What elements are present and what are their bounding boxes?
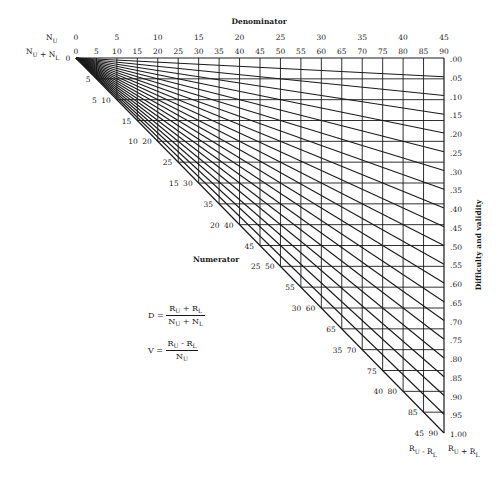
validity-denominator: NU — [166, 351, 199, 362]
nu-nl-tick-label: 75 — [378, 47, 388, 56]
difficulty-formula: D = RU + RL NU + NL — [148, 304, 205, 327]
numerator-tick-label: 35 — [204, 200, 214, 209]
nu-nl-tick-label: 80 — [398, 47, 408, 56]
nu-tick-label: 30 — [317, 33, 327, 42]
validity-formula: V = RU - RL NU — [148, 339, 198, 362]
difficulty-tick-label: .40 — [450, 205, 462, 214]
nu-tick-label: 0 — [74, 33, 79, 42]
nu-nl-tick-label: 85 — [419, 47, 429, 56]
numerator-half-tick-label: 25 — [251, 262, 261, 271]
nu-nl-tick-label: 20 — [153, 47, 163, 56]
ru-minus-rl-label: RU - RL — [409, 444, 437, 458]
difficulty-tick-label: .15 — [450, 111, 462, 120]
nu-nl-tick-label: 60 — [317, 47, 327, 56]
nu-nl-tick-label: 5 — [94, 47, 99, 56]
ru-plus-rl-label: RU + RL — [448, 444, 479, 458]
difficulty-tick-label: .10 — [450, 93, 462, 102]
nu-nl-tick-label: 65 — [337, 47, 347, 56]
nu-nl-tick-label: 15 — [133, 47, 143, 56]
nu-tick-label: 45 — [439, 33, 449, 42]
numerator-half-tick-label: 10 — [128, 137, 138, 146]
validity-numerator: RU - RL — [166, 339, 199, 351]
difficulty-tick-label: .60 — [450, 280, 462, 289]
difficulty-tick-label: .75 — [450, 336, 462, 345]
numerator-tick-label: 30 — [183, 179, 193, 188]
nu-nl-tick-label: 55 — [296, 47, 306, 56]
numerator-tick-label: 80 — [388, 387, 398, 396]
difficulty-tick-label: .05 — [450, 74, 462, 83]
difficulty-numerator: RU + RL — [166, 304, 205, 316]
numerator-tick-label: 20 — [142, 137, 152, 146]
difficulty-tick-label: .00 — [450, 55, 462, 64]
origin-label: 0 — [66, 54, 71, 63]
numerator-tick-label: 10 — [101, 96, 111, 105]
difficulty-denominator: NU + NL — [166, 316, 205, 327]
difficulty-lhs: D = — [148, 311, 164, 320]
numerator-half-tick-label: 20 — [210, 221, 220, 230]
difficulty-tick-label: .25 — [450, 149, 462, 158]
difficulty-tick-label: .65 — [450, 299, 462, 308]
nu-tick-label: 40 — [398, 33, 408, 42]
nu-axis-label: NU — [46, 33, 58, 44]
nu-nl-tick-label: 35 — [214, 47, 224, 56]
difficulty-tick-label: .90 — [450, 393, 462, 402]
nu-tick-label: 15 — [194, 33, 204, 42]
difficulty-tick-label: .45 — [450, 224, 462, 233]
numerator-tick-label: 75 — [367, 367, 377, 376]
nu-nl-tick-label: 40 — [235, 47, 245, 56]
numerator-tick-label: 45 — [244, 242, 254, 251]
nu-nl-axis-label: NU + NL — [26, 47, 59, 61]
numerator-half-tick-label: 30 — [292, 304, 302, 313]
nu-tick-label: 20 — [235, 33, 245, 42]
difficulty-tick-label: .95 — [450, 411, 462, 420]
difficulty-tick-label: 1.00 — [450, 430, 467, 439]
nu-nl-tick-label: 10 — [112, 47, 122, 56]
nomograph-chart: Denominator051015202530354045NU051015202… — [0, 0, 503, 481]
nu-nl-tick-label: 25 — [173, 47, 183, 56]
nu-tick-label: 25 — [276, 33, 286, 42]
numerator-tick-label: 55 — [285, 283, 295, 292]
denominator-title: Denominator — [231, 17, 287, 26]
nu-nl-tick-label: 70 — [357, 47, 367, 56]
numerator-tick-label: 15 — [122, 117, 132, 126]
numerator-tick-label: 65 — [326, 325, 336, 334]
difficulty-tick-label: .35 — [450, 186, 462, 195]
numerator-tick-label: 25 — [163, 158, 173, 167]
difficulty-tick-label: .55 — [450, 261, 462, 270]
nu-tick-label: 10 — [153, 33, 163, 42]
nu-nl-tick-label: 45 — [255, 47, 265, 56]
difficulty-tick-label: .85 — [450, 374, 462, 383]
numerator-half-tick-label: 40 — [374, 387, 384, 396]
validity-lhs: V = — [148, 346, 163, 355]
nu-tick-label: 5 — [114, 33, 119, 42]
numerator-half-tick-label: 45 — [414, 429, 424, 438]
numerator-tick-label: 50 — [265, 262, 275, 271]
nu-nl-tick-label: 0 — [74, 47, 79, 56]
numerator-tick-label: 60 — [306, 304, 316, 313]
validity-fraction: RU - RL NU — [166, 339, 199, 362]
nu-nl-tick-label: 50 — [276, 47, 286, 56]
numerator-tick-label: 5 — [86, 75, 91, 84]
difficulty-tick-label: .80 — [450, 355, 462, 364]
difficulty-tick-label: .50 — [450, 243, 462, 252]
nu-nl-tick-label: 90 — [439, 47, 449, 56]
difficulty-fraction: RU + RL NU + NL — [166, 304, 205, 327]
difficulty-tick-label: .70 — [450, 318, 462, 327]
numerator-label: Numerator — [193, 255, 240, 264]
numerator-tick-label: 40 — [224, 221, 234, 230]
numerator-tick-label: 70 — [347, 346, 357, 355]
numerator-half-tick-label: 35 — [333, 346, 343, 355]
axis-labels: Denominator051015202530354045NU051015202… — [26, 17, 483, 458]
nu-tick-label: 35 — [357, 33, 367, 42]
numerator-tick-label: 85 — [408, 408, 418, 417]
difficulty-validity-label: Difficulty and validity — [474, 199, 483, 290]
numerator-half-tick-label: 5 — [92, 96, 97, 105]
difficulty-tick-label: .30 — [450, 168, 462, 177]
nu-nl-tick-label: 30 — [194, 47, 204, 56]
numerator-tick-label: 90 — [428, 429, 438, 438]
difficulty-tick-label: .20 — [450, 130, 462, 139]
numerator-half-tick-label: 15 — [169, 179, 179, 188]
